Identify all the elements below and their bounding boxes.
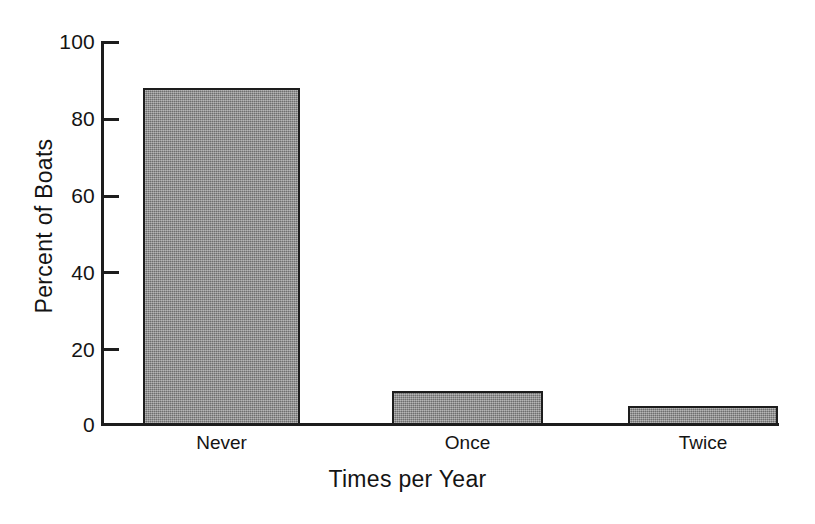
bar-twice (628, 406, 778, 425)
y-tick-20: 20 (0, 339, 95, 361)
y-tick-label-100: 100 (39, 31, 95, 52)
y-tick-mark-100 (104, 41, 119, 44)
y-tick-mark-40 (104, 271, 119, 274)
x-category-label-twice: Twice (628, 432, 778, 454)
y-axis-title: Percent of Boats (31, 106, 57, 346)
x-axis-title: Times per Year (0, 466, 815, 492)
y-tick-label-60: 60 (39, 185, 95, 206)
y-tick-0: 0 (0, 414, 95, 436)
y-tick-mark-80 (104, 118, 119, 121)
y-tick-mark-20 (104, 348, 119, 351)
x-category-label-never: Never (143, 432, 300, 454)
y-tick-100: 100 (0, 31, 95, 53)
x-category-label-once: Once (392, 432, 543, 454)
y-tick-label-20: 20 (39, 339, 95, 360)
y-tick-60: 60 (0, 185, 95, 207)
y-axis-line (101, 41, 104, 426)
bar-chart-figure: Percent of Boats 100 80 60 40 20 0 Never… (0, 0, 815, 524)
bar-once (392, 391, 543, 425)
y-tick-40: 40 (0, 262, 95, 284)
y-tick-80: 80 (0, 108, 95, 130)
y-tick-label-40: 40 (39, 262, 95, 283)
y-tick-mark-60 (104, 195, 119, 198)
y-tick-label-80: 80 (39, 108, 95, 129)
bar-never (143, 88, 300, 425)
y-tick-label-0: 0 (39, 414, 95, 435)
